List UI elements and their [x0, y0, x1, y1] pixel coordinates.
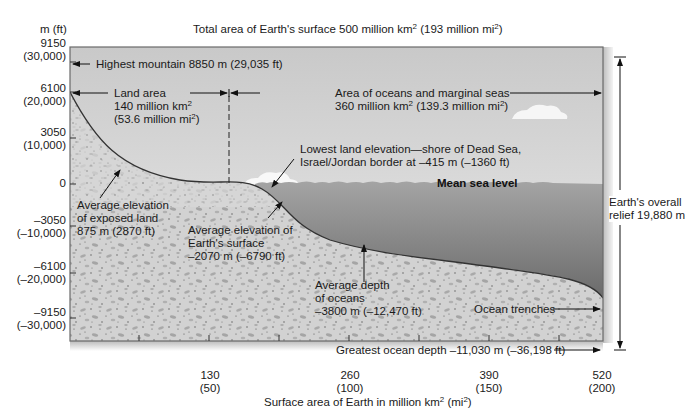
x-tick: 130(50)	[180, 369, 240, 395]
x-tick-km: 390	[459, 369, 519, 382]
ocean-area-line: 360 million km2 (139.3 million mi2)	[335, 100, 510, 113]
lowest-land-line: Israel/Jordan border at –415 m (–1360 ft…	[300, 156, 521, 169]
ocean-area-line: Area of oceans and marginal seas	[335, 87, 510, 100]
avg-land-line: 875 m (2870 ft)	[77, 225, 169, 238]
relief-line: relief 19,880 m	[609, 209, 685, 222]
ocean-trenches-label: Ocean trenches	[474, 303, 555, 316]
avg-land-line: of exposed land	[77, 212, 169, 225]
x-axis-title: Surface area of Earth in million km2 (mi…	[264, 396, 472, 409]
avg-land-label: Average elevation of exposed land 875 m …	[77, 199, 169, 238]
x-axis-title-text: )	[468, 396, 472, 408]
x-tick-mi: (100)	[320, 382, 380, 395]
ocean-area-text: (139.3 million mi	[413, 100, 500, 112]
land-area-text: )	[196, 113, 200, 125]
land-area-text: 140 million km	[114, 100, 188, 112]
x-tick: 390(150)	[459, 369, 519, 395]
avg-surface-line: –2070 m (–6790 ft)	[188, 250, 293, 263]
land-area-label: Land area 140 million km2 (53.6 million …	[114, 87, 200, 126]
land-area-line: 140 million km2	[114, 100, 200, 113]
highest-mountain-label: Highest mountain 8850 m (29,035 ft)	[96, 58, 283, 71]
lowest-land-label: Lowest land elevation—shore of Dead Sea,…	[300, 143, 521, 169]
avg-depth-line: –3800 m (–12,470 ft)	[315, 305, 422, 318]
x-tick-km: 130	[180, 369, 240, 382]
x-tick-mi: (50)	[180, 382, 240, 395]
x-axis-title-text: Surface area of Earth in million km	[264, 396, 440, 408]
x-tick-mi: (200)	[572, 382, 632, 395]
avg-depth-line: of oceans	[315, 292, 422, 305]
ocean-area-label: Area of oceans and marginal seas 360 mil…	[335, 87, 510, 113]
x-tick-km: 520	[572, 369, 632, 382]
avg-depth-line: Average depth	[315, 279, 422, 292]
avg-land-line: Average elevation	[77, 199, 169, 212]
frame-edge	[603, 47, 613, 343]
x-tick-mi: (150)	[459, 382, 519, 395]
greatest-depth-label: Greatest ocean depth –11,030 m (–36,198 …	[336, 344, 565, 357]
relief-line: Earth's overall	[609, 196, 685, 209]
lowest-land-line: Lowest land elevation—shore of Dead Sea,	[300, 143, 521, 156]
mean-sea-level-label: Mean sea level	[437, 177, 518, 190]
avg-surface-line: Earth's surface	[188, 237, 293, 250]
ocean-area-text: )	[504, 100, 508, 112]
land-area-line: (53.6 million mi2)	[114, 113, 200, 126]
x-tick: 520(200)	[572, 369, 632, 395]
x-axis-title-text: (mi	[444, 396, 463, 408]
avg-surface-label: Average elevation of Earth's surface –20…	[188, 224, 293, 263]
land-area-sup: 2	[188, 99, 192, 108]
ocean-area-text: 360 million km	[335, 100, 409, 112]
land-area-text: (53.6 million mi	[114, 113, 191, 125]
avg-depth-label: Average depth of oceans –3800 m (–12,470…	[315, 279, 422, 318]
x-tick-km: 260	[320, 369, 380, 382]
avg-surface-line: Average elevation of	[188, 224, 293, 237]
overall-relief-label: Earth's overall relief 19,880 m	[609, 196, 685, 222]
x-tick: 260(100)	[320, 369, 380, 395]
